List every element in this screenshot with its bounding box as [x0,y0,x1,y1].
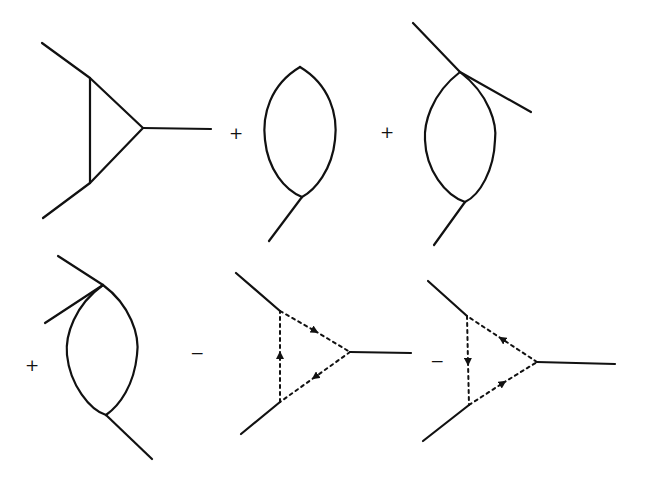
feynman-diagrams [0,0,645,487]
plus-operator-2: + [380,124,394,141]
minus-operator-1: − [190,345,204,362]
diagram-ghost-triangle-1 [236,273,411,434]
diagram-gluon-triangle [42,43,211,218]
minus-operator-2: − [430,353,444,370]
diagram-bubble-two-left [45,256,152,459]
plus-operator-1: + [229,125,243,142]
diagram-bubble-one [264,67,335,241]
plus-operator-3: + [25,357,39,374]
diagram-bubble-two-top [413,23,531,245]
diagram-ghost-triangle-2 [423,281,615,441]
